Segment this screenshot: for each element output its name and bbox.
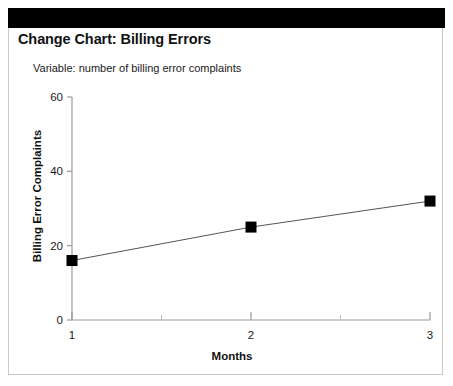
x-tick-label: 3 <box>427 329 433 341</box>
x-tick-labels: 123 <box>0 0 453 386</box>
chart-page: Change Chart: Billing Errors Variable: n… <box>0 0 453 386</box>
x-tick-label: 2 <box>248 329 254 341</box>
x-tick-label: 1 <box>69 329 75 341</box>
plot-area: Billing Error Complaints Months 0204060 … <box>0 0 453 386</box>
